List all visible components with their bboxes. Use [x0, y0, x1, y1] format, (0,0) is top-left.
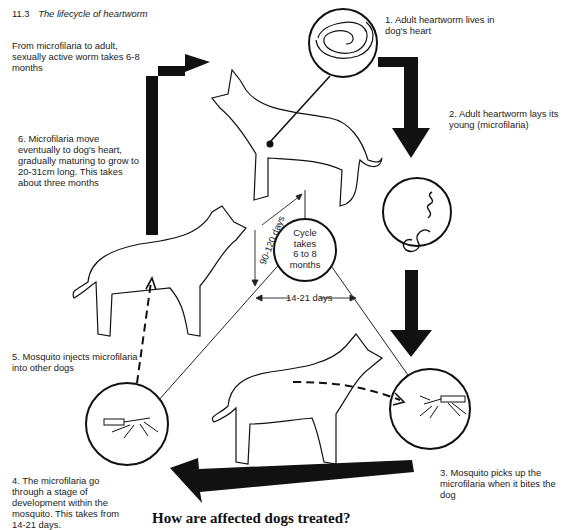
duration-14-21-days: 14-21 days [286, 292, 332, 303]
dog-top [212, 70, 382, 206]
center-cycle-label: Cycle takes 6 to 8 months [280, 228, 330, 270]
arrow-3-to-4 [170, 458, 414, 503]
circle-mosquito-carrier [86, 383, 168, 465]
step-1-text: 1. Adult heartworm lives in dog's heart [385, 14, 505, 36]
arrow-6-to-1 [146, 54, 210, 235]
circle-mosquito-bite [390, 369, 470, 449]
arrow-1-to-2 [378, 57, 430, 158]
center-line-4: months [280, 260, 330, 271]
maturation-note: From microfilaria to adult, sexually act… [12, 40, 147, 73]
next-section-heading: How are affected dogs treated? [152, 510, 351, 527]
figure-title: The lifecycle of heartworm [38, 8, 147, 19]
step-4-text: 4. The microfilaria go through a stage o… [12, 475, 127, 530]
step-6-text: 6. Microfilaria move eventually to dog's… [18, 133, 142, 188]
center-line-3: 6 to 8 [280, 249, 330, 260]
dog-bottom [212, 334, 382, 464]
figure-caption: 11.3 The lifecycle of heartworm [12, 8, 148, 19]
figure-number: 11.3 [12, 8, 30, 19]
circle-adult-worm [309, 9, 377, 77]
arrow-2-to-3 [390, 270, 432, 357]
center-line-1: Cycle [280, 228, 330, 239]
step-5-text: 5. Mosquito injects microfilaria into ot… [12, 351, 140, 373]
step-3-text: 3. Mosquito picks up the microfilaria wh… [440, 467, 566, 500]
dog-mid-left [73, 206, 246, 336]
step-2-text: 2. Adult heartworm lays its young (micro… [449, 108, 566, 130]
